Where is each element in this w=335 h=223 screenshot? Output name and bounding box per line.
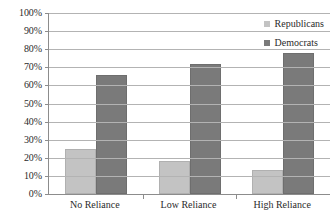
- gridline: [49, 140, 330, 141]
- y-tick-label: 50%: [24, 99, 42, 109]
- gridline: [49, 122, 330, 123]
- y-axis: 0%10%20%30%40%50%60%70%80%90%100%: [0, 13, 46, 194]
- bar-chart: 0%10%20%30%40%50%60%70%80%90%100% Republ…: [0, 0, 335, 223]
- legend-label: Democrats: [275, 38, 318, 48]
- x-tick-label: Low Reliance: [161, 200, 217, 210]
- y-tick-label: 70%: [24, 62, 42, 72]
- y-tick-mark: [45, 140, 49, 141]
- y-tick-label: 10%: [24, 171, 42, 181]
- x-tick-mark: [236, 194, 237, 199]
- y-tick-mark: [45, 85, 49, 86]
- legend-swatch-icon: [264, 40, 270, 46]
- y-tick-mark: [45, 67, 49, 68]
- y-tick-label: 100%: [19, 8, 42, 18]
- x-axis: No RelianceLow RelianceHigh Reliance: [48, 200, 329, 220]
- legend-label: Republicans: [275, 19, 324, 29]
- y-tick-mark: [45, 122, 49, 123]
- gridline: [49, 31, 330, 32]
- bar-democrats-low-reliance: [190, 64, 221, 194]
- y-tick-label: 20%: [24, 153, 42, 163]
- y-tick-mark: [45, 176, 49, 177]
- gridline: [49, 13, 330, 14]
- bar-republicans-low-reliance: [159, 161, 190, 194]
- y-tick-mark: [45, 104, 49, 105]
- y-tick-label: 90%: [24, 26, 42, 36]
- y-tick-label: 0%: [29, 189, 42, 199]
- y-tick-label: 80%: [24, 44, 42, 54]
- gridline: [49, 176, 330, 177]
- legend: RepublicansDemocrats: [264, 19, 324, 48]
- x-tick-mark: [143, 194, 144, 199]
- plot-area: RepublicansDemocrats: [48, 13, 330, 195]
- y-tick-label: 60%: [24, 80, 42, 90]
- x-tick-label: High Reliance: [253, 200, 310, 210]
- y-tick-label: 30%: [24, 135, 42, 145]
- y-tick-label: 40%: [24, 117, 42, 127]
- gridline: [49, 85, 330, 86]
- y-tick-mark: [45, 13, 49, 14]
- y-tick-mark: [45, 158, 49, 159]
- x-tick-label: No Reliance: [70, 200, 120, 210]
- legend-item-republicans: Republicans: [264, 19, 324, 29]
- legend-item-democrats: Democrats: [264, 38, 324, 48]
- bar-republicans-high-reliance: [252, 170, 283, 194]
- y-tick-mark: [45, 194, 49, 195]
- gridline: [49, 104, 330, 105]
- bar-democrats-high-reliance: [283, 53, 314, 194]
- gridline: [49, 49, 330, 50]
- gridline: [49, 67, 330, 68]
- legend-swatch-icon: [264, 21, 270, 27]
- bar-republicans-no-reliance: [65, 149, 96, 194]
- y-tick-mark: [45, 31, 49, 32]
- gridline: [49, 158, 330, 159]
- y-tick-mark: [45, 49, 49, 50]
